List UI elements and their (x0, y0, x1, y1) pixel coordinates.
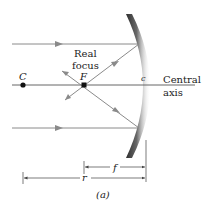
label-f-focus: F (79, 71, 88, 82)
label-real: Real (74, 48, 97, 59)
label-central: Central (163, 74, 201, 85)
reflected-ray-bottom (62, 71, 139, 128)
label-r-radius: r (82, 172, 88, 183)
label-focus: focus (72, 60, 99, 71)
focal-point (82, 83, 87, 88)
incoming-ray-bottom (12, 125, 139, 131)
incoming-ray-top (12, 41, 139, 47)
center-of-curvature-point (20, 82, 25, 87)
concave-mirror-diagram: C F Real focus c Central axis f r (a) (0, 0, 207, 217)
label-axis: axis (163, 87, 183, 98)
figure-caption: (a) (96, 189, 110, 200)
label-mirror-vertex: c (141, 74, 146, 83)
label-c-center: C (19, 71, 27, 82)
label-f-length: f (112, 162, 119, 173)
concave-mirror (126, 14, 150, 158)
